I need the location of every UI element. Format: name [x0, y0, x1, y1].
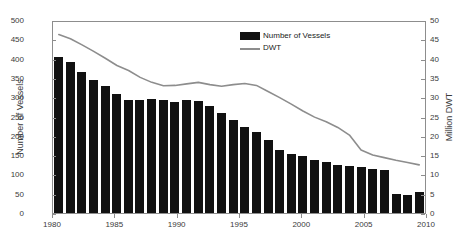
bar	[182, 100, 191, 213]
bar	[77, 72, 86, 213]
y-axis-left-tick-label: 450	[11, 36, 24, 44]
y-axis-right-tick-mark	[421, 40, 425, 41]
y-axis-right-tick-mark	[421, 195, 425, 196]
bar	[217, 113, 226, 213]
bar	[333, 165, 342, 213]
y-axis-right-tick-mark	[421, 79, 425, 80]
y-axis-left-tick-mark	[52, 195, 56, 196]
bar	[229, 120, 238, 213]
bar	[392, 194, 401, 213]
y-axis-left-tick-mark	[52, 79, 56, 80]
x-axis-tick-label: 1990	[157, 221, 197, 229]
bar	[170, 102, 179, 213]
bar	[66, 62, 75, 213]
plot-area	[52, 21, 426, 214]
y-axis-right-tick-label: 50	[430, 17, 439, 25]
bar	[124, 100, 133, 213]
bar	[345, 166, 354, 213]
y-axis-right-tick-mark	[421, 60, 425, 61]
x-axis-tick-mark	[301, 214, 302, 218]
x-axis-tick-mark	[239, 214, 240, 218]
bar	[380, 170, 389, 213]
legend-label-number-of-vessels: Number of Vessels	[263, 31, 330, 40]
bar	[159, 100, 168, 213]
y-axis-right-title: Million DWT	[444, 57, 453, 177]
y-axis-right-tick-label: 15	[430, 152, 439, 160]
bar	[403, 195, 412, 213]
y-axis-left-tick-mark	[52, 21, 56, 22]
bar	[240, 127, 249, 213]
y-axis-right-tick-label: 35	[430, 75, 439, 83]
y-axis-left-tick-label: 0	[20, 210, 24, 218]
y-axis-left-tick-mark	[52, 118, 56, 119]
y-axis-right-tick-mark	[421, 156, 425, 157]
y-axis-right-tick-label: 10	[430, 171, 439, 179]
bar-series-number-of-vessels	[53, 22, 425, 213]
y-axis-right-tick-label: 40	[430, 56, 439, 64]
legend-item-number-of-vessels: Number of Vessels	[240, 30, 330, 41]
x-axis-tick-mark	[364, 214, 365, 218]
bar	[287, 154, 296, 213]
bar	[310, 160, 319, 213]
bar	[368, 169, 377, 213]
bar	[264, 140, 273, 213]
bar	[135, 100, 144, 213]
y-axis-left-tick-mark	[52, 175, 56, 176]
y-axis-left-tick-label: 50	[15, 191, 24, 199]
y-axis-right-tick-mark	[421, 98, 425, 99]
y-axis-right-tick-label: 45	[430, 36, 439, 44]
bar	[252, 132, 261, 213]
bar	[275, 150, 284, 213]
x-axis-tick-mark	[177, 214, 178, 218]
bar	[357, 167, 366, 213]
bar	[89, 80, 98, 213]
x-axis-tick-label: 2000	[281, 221, 321, 229]
x-axis-tick-label: 2010	[406, 221, 446, 229]
y-axis-right-tick-mark	[421, 21, 425, 22]
y-axis-right-tick-label: 5	[430, 191, 434, 199]
legend-item-dwt: DWT	[240, 42, 330, 53]
y-axis-left-tick-label: 500	[11, 17, 24, 25]
y-axis-left-title: Number of Vessels	[15, 57, 25, 177]
bar	[298, 156, 307, 213]
x-axis-tick-label: 1995	[219, 221, 259, 229]
bar	[147, 99, 156, 213]
y-axis-right-tick-label: 20	[430, 133, 439, 141]
bar-swatch-icon	[240, 32, 260, 40]
y-axis-left-tick-mark	[52, 156, 56, 157]
y-axis-right-tick-mark	[421, 214, 425, 215]
y-axis-left-tick-mark	[52, 98, 56, 99]
x-axis-tick-mark	[114, 214, 115, 218]
x-axis-tick-label: 1985	[94, 221, 134, 229]
y-axis-right-tick-label: 30	[430, 94, 439, 102]
y-axis-right-tick-mark	[421, 175, 425, 176]
chart-figure: 050100150200250300350400450500 051015202…	[0, 0, 453, 241]
bar	[205, 106, 214, 213]
bar	[112, 94, 121, 213]
y-axis-right-tick-label: 25	[430, 114, 439, 122]
bar	[101, 86, 110, 213]
y-axis-right-tick-mark	[421, 118, 425, 119]
y-axis-left-tick-mark	[52, 60, 56, 61]
y-axis-right-tick-label: 0	[430, 210, 434, 218]
x-axis-tick-mark	[52, 214, 53, 218]
bar	[194, 101, 203, 213]
y-axis-right-tick-mark	[421, 137, 425, 138]
x-axis-tick-mark	[426, 214, 427, 218]
line-swatch-icon	[240, 44, 260, 52]
y-axis-left-tick-mark	[52, 137, 56, 138]
x-axis-tick-label: 1980	[32, 221, 72, 229]
bar	[54, 57, 63, 213]
bar	[322, 162, 331, 213]
x-axis-tick-label: 2005	[344, 221, 384, 229]
chart-legend: Number of Vessels DWT	[240, 30, 330, 54]
y-axis-left-tick-mark	[52, 40, 56, 41]
legend-label-dwt: DWT	[263, 43, 281, 52]
